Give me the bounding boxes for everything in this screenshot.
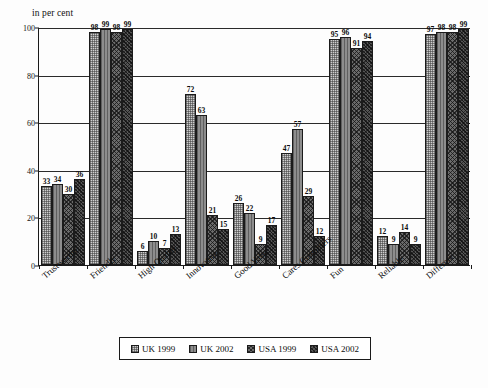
bar[interactable]: 98 (447, 32, 458, 265)
bar-wrapper: 96 (340, 28, 351, 265)
x-tick-mark (39, 265, 40, 269)
y-tick-label: 100 (23, 24, 39, 33)
bar-group: 129149 (375, 28, 423, 265)
bar[interactable]: 94 (362, 41, 373, 265)
bar-wrapper: 94 (362, 28, 373, 265)
bar[interactable]: 34 (52, 184, 63, 265)
legend-item[interactable]: USA 1999 (247, 344, 296, 354)
bar-value-label: 26 (235, 194, 243, 203)
bar-wrapper: 22 (244, 28, 255, 265)
bar-value-label: 12 (316, 227, 324, 236)
bar[interactable]: 99 (100, 29, 111, 265)
bar[interactable]: 99 (122, 29, 133, 265)
plot-area: 020406080100 333430369899989961071372632… (38, 28, 470, 266)
bar[interactable]: 95 (329, 39, 340, 265)
bar-wrapper: 12 (314, 28, 325, 265)
bar-value-label: 91 (353, 39, 361, 48)
legend-label: UK 2002 (200, 344, 233, 354)
bar[interactable]: 57 (292, 129, 303, 265)
bar-value-label: 99 (124, 20, 132, 29)
legend-label: UK 1999 (142, 344, 175, 354)
bar[interactable]: 63 (196, 115, 207, 265)
bar-group: 72632115 (183, 28, 231, 265)
bar[interactable]: 17 (266, 225, 277, 265)
bar[interactable]: 47 (281, 153, 292, 265)
bar-value-label: 96 (342, 28, 350, 37)
x-tick-mark (375, 265, 376, 269)
bar-value-label: 98 (113, 23, 121, 32)
bar[interactable]: 9 (410, 244, 421, 265)
bar-wrapper: 99 (122, 28, 133, 265)
bar-wrapper: 29 (303, 28, 314, 265)
bar-value-label: 30 (65, 185, 73, 194)
bar-wrapper: 12 (377, 28, 388, 265)
chart-legend: UK 1999UK 2002USA 1999USA 2002 (119, 337, 371, 360)
bar-wrapper: 36 (74, 28, 85, 265)
bar-value-label: 9 (259, 235, 263, 244)
bar-wrapper: 63 (196, 28, 207, 265)
bar-value-label: 99 (102, 20, 110, 29)
bar-value-label: 33 (43, 177, 51, 186)
bar-wrapper: 30 (63, 28, 74, 265)
bar[interactable]: 99 (458, 29, 469, 265)
bar[interactable]: 26 (233, 203, 244, 265)
bar-wrapper: 33 (41, 28, 52, 265)
bar[interactable]: 98 (436, 32, 447, 265)
bar-wrapper: 10 (148, 28, 159, 265)
bar[interactable]: 96 (340, 37, 351, 265)
x-tick-mark (423, 265, 424, 269)
bar-value-label: 98 (438, 23, 446, 32)
bar-chart: in per cent 020406080100 333430369899989… (0, 0, 488, 388)
bar[interactable]: 15 (218, 229, 229, 265)
bar-wrapper: 98 (447, 28, 458, 265)
y-tick-label: 20 (27, 214, 39, 223)
bar-wrapper: 14 (399, 28, 410, 265)
bar-wrapper: 34 (52, 28, 63, 265)
x-tick-mark (471, 265, 472, 269)
bar-value-label: 10 (150, 232, 158, 241)
x-tick-mark (231, 265, 232, 269)
bar-wrapper: 99 (458, 28, 469, 265)
bar-wrapper: 98 (436, 28, 447, 265)
bar-wrapper: 15 (218, 28, 229, 265)
bar-value-label: 97 (427, 25, 435, 34)
bar-value-label: 21 (209, 206, 217, 215)
bar-wrapper: 57 (292, 28, 303, 265)
legend-label: USA 1999 (258, 344, 296, 354)
y-tick-label: 40 (27, 166, 39, 175)
legend-swatch (310, 345, 318, 353)
bar[interactable]: 98 (111, 32, 122, 265)
bar[interactable]: 98 (89, 32, 100, 265)
bar-value-label: 57 (294, 120, 302, 129)
y-tick-label: 80 (27, 71, 39, 80)
bar-wrapper: 98 (89, 28, 100, 265)
bar[interactable]: 91 (351, 48, 362, 265)
bars-layer: 3334303698999899610713726321152622917475… (39, 28, 470, 265)
y-tick-label: 60 (27, 119, 39, 128)
bar-wrapper: 98 (111, 28, 122, 265)
bar-wrapper: 13 (170, 28, 181, 265)
bar-value-label: 9 (414, 235, 418, 244)
bar-value-label: 17 (268, 216, 276, 225)
bar[interactable]: 33 (41, 186, 52, 265)
bar-value-label: 14 (401, 223, 409, 232)
bar-group: 97989899 (423, 28, 471, 265)
bar[interactable]: 12 (377, 236, 388, 265)
bar-value-label: 47 (283, 144, 291, 153)
bar-wrapper: 6 (137, 28, 148, 265)
x-tick-mark (279, 265, 280, 269)
legend-item[interactable]: UK 2002 (189, 344, 233, 354)
legend-swatch (131, 345, 139, 353)
bar-wrapper: 95 (329, 28, 340, 265)
bar-value-label: 22 (246, 204, 254, 213)
bar-value-label: 29 (305, 187, 313, 196)
bar[interactable]: 97 (425, 34, 436, 265)
bar-wrapper: 7 (159, 28, 170, 265)
legend-item[interactable]: USA 2002 (310, 344, 359, 354)
bar-group: 95969194 (327, 28, 375, 265)
bar-value-label: 99 (460, 20, 468, 29)
bar[interactable]: 72 (185, 94, 196, 265)
x-tick-mark (135, 265, 136, 269)
bar-value-label: 98 (91, 23, 99, 32)
legend-item[interactable]: UK 1999 (131, 344, 175, 354)
